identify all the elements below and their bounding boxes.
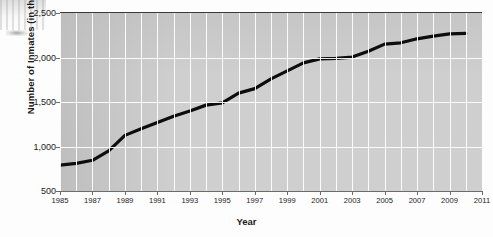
y-tick-mark [56,58,60,59]
x-tick-label: 2005 [376,196,393,205]
x-tick-mark [450,191,451,195]
y-tick-label: 2,500 [8,8,56,18]
gridline-horizontal [60,58,482,59]
y-tick-mark [56,147,60,148]
x-axis-line [60,191,482,192]
x-tick-mark [125,191,126,195]
x-tick-label: 2001 [311,196,328,205]
y-tick-label: 500 [8,186,56,196]
line-chart: Number of Inmates (in thousands) 5001,00… [0,0,493,237]
x-tick-mark [385,191,386,195]
x-tick-label: 2007 [409,196,426,205]
x-tick-mark [190,191,191,195]
x-tick-label: 1987 [84,196,101,205]
x-tick-label: 2003 [344,196,361,205]
x-tick-mark [222,191,223,195]
x-tick-mark [417,191,418,195]
x-tick-label: 2011 [474,196,490,205]
x-tick-mark [482,191,483,195]
x-tick-label: 1989 [116,196,133,205]
x-axis-tick-labels: 1985198719891991199319951997199920012003… [0,196,493,212]
x-tick-label: 1999 [279,196,296,205]
x-tick-label: 2009 [441,196,458,205]
x-tick-label: 1985 [52,196,69,205]
x-tick-label: 1993 [181,196,198,205]
x-tick-mark [287,191,288,195]
x-tick-label: 1991 [149,196,166,205]
x-tick-mark [255,191,256,195]
x-tick-label: 1997 [246,196,263,205]
y-tick-mark [56,13,60,14]
x-axis-title: Year [0,216,493,227]
y-tick-label: 1,000 [8,142,56,152]
y-tick-label: 1,500 [8,97,56,107]
x-tick-mark [320,191,321,195]
y-tick-label: 2,000 [8,53,56,63]
gridline-horizontal [60,102,482,103]
x-tick-mark [60,191,61,195]
x-tick-mark [92,191,93,195]
plot-area [60,13,482,191]
x-tick-label: 1995 [214,196,231,205]
x-tick-mark [352,191,353,195]
gridline-horizontal [60,147,482,148]
x-tick-mark [157,191,158,195]
y-tick-mark [56,102,60,103]
